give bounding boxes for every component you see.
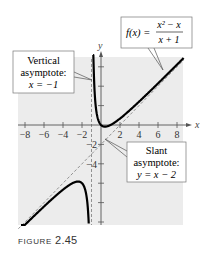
- caption-number: 2.45: [55, 234, 77, 246]
- y-axis-arrow-icon: [99, 51, 103, 57]
- figure-caption: FIGURE 2.45: [18, 234, 77, 246]
- x-tick-label: 6: [156, 129, 161, 140]
- function-denominator: x + 1: [157, 34, 179, 45]
- x-tick-label: 2: [118, 129, 123, 140]
- x-axis-label: x: [194, 119, 200, 130]
- caption-word: FIGURE: [18, 237, 52, 246]
- slant-callout-line-1: Slant: [146, 145, 168, 156]
- y-tick-label: −4: [86, 159, 97, 170]
- function-numerator: x² − x: [156, 19, 181, 30]
- x-tick-label: −4: [58, 129, 69, 140]
- figure-chart: xy−8−6−4−22468−4−2 Vertical asymptote: x…: [0, 0, 206, 255]
- x-tick-label: 4: [137, 129, 142, 140]
- slant-callout-line-3: y = x − 2: [136, 169, 177, 180]
- x-tick-label: −8: [20, 129, 31, 140]
- x-tick-label: −6: [39, 129, 50, 140]
- vertical-callout-line-2: asymptote:: [20, 67, 66, 78]
- x-axis-arrow-icon: [186, 123, 192, 127]
- y-axis-label: y: [97, 40, 103, 51]
- function-lhs: f(x) =: [126, 27, 150, 39]
- vertical-callout-line-1: Vertical: [27, 55, 60, 66]
- x-tick-label: 8: [175, 129, 180, 140]
- y-tick-label: −2: [86, 139, 97, 150]
- slant-callout-line-2: asymptote:: [133, 157, 179, 168]
- vertical-callout-line-3: x = −1: [28, 79, 58, 90]
- x-tick-label: −2: [77, 129, 88, 140]
